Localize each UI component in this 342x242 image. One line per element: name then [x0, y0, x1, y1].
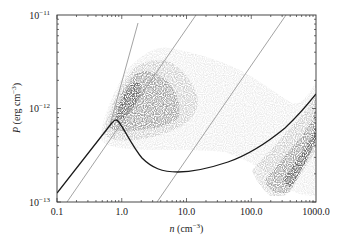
y-tick-label-bottom: 10−13	[29, 196, 50, 208]
svg-text:10−13: 10−13	[29, 196, 50, 208]
x-tick-label: 1000.0	[302, 206, 330, 217]
x-axis-label: n (cm−3)	[170, 222, 204, 235]
x-tick-label: 1.0	[116, 206, 129, 217]
svg-text:10−11: 10−11	[29, 9, 50, 21]
y-tick-label-mid: 10−12	[29, 102, 50, 114]
density-heatmap	[57, 15, 316, 202]
y-axis-label: P (erg cm−3)	[10, 83, 23, 134]
phase-diagram-chart: 0.1 1.0 10.0 100.0 1000.0 10−11 10−12 10…	[0, 0, 342, 242]
x-tick-label: 10.0	[178, 206, 196, 217]
svg-text:10−12: 10−12	[29, 102, 50, 114]
x-tick-label: 100.0	[240, 206, 263, 217]
y-tick-label-top: 10−11	[29, 9, 50, 21]
x-tick-label: 0.1	[51, 206, 64, 217]
